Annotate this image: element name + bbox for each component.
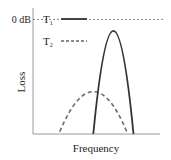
reference-label: 0 dB xyxy=(12,14,32,25)
legend: T1 T2 xyxy=(43,13,87,48)
legend-entry-t2: T2 xyxy=(43,35,87,48)
svg-text:T1: T1 xyxy=(43,13,53,26)
series-t1-solid-curve xyxy=(93,31,133,134)
svg-text:T2: T2 xyxy=(43,35,53,48)
x-axis-label: Frequency xyxy=(73,142,120,154)
legend-entry-t1: T1 xyxy=(43,13,87,26)
y-axis-label: Loss xyxy=(15,72,27,93)
chart: 0 dB T1 T2 Loss Frequency xyxy=(0,0,171,160)
legend-sub-t2: 2 xyxy=(50,42,53,48)
legend-sub-t1: 1 xyxy=(50,20,53,26)
